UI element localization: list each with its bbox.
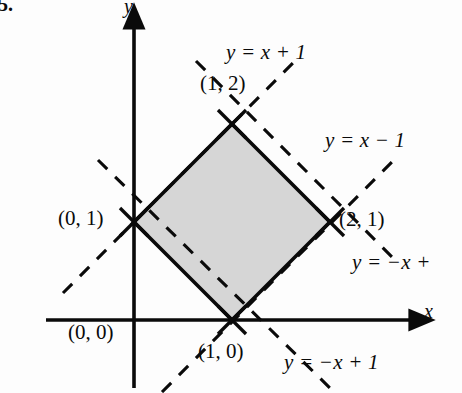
point-label-origin: (0, 0) (68, 322, 114, 343)
point-label-top-vertex: (1, 2) (200, 73, 246, 94)
point-label-right-vertex: (2, 1) (339, 209, 385, 230)
equation-label-y-equals-x-plus-1: y = x + 1 (226, 42, 306, 63)
problem-number: 5. (0, 0, 13, 14)
equation-label-y-equals-minus-x-plus-3: y = −x + (352, 252, 431, 273)
x-axis-label: x (424, 301, 433, 321)
shaded-region (134, 124, 330, 320)
point-label-left-vertex: (0, 1) (58, 208, 104, 229)
figure-canvas: 5. y x y = x + 1 y = x − 1 y = −x + y = … (0, 0, 462, 393)
point-label-bottom-vertex: (1, 0) (198, 341, 244, 362)
y-axis-label: y (124, 0, 133, 16)
equation-label-y-equals-minus-x-plus-1: y = −x + 1 (284, 352, 379, 373)
equation-label-y-equals-x-minus-1: y = x − 1 (325, 130, 405, 151)
